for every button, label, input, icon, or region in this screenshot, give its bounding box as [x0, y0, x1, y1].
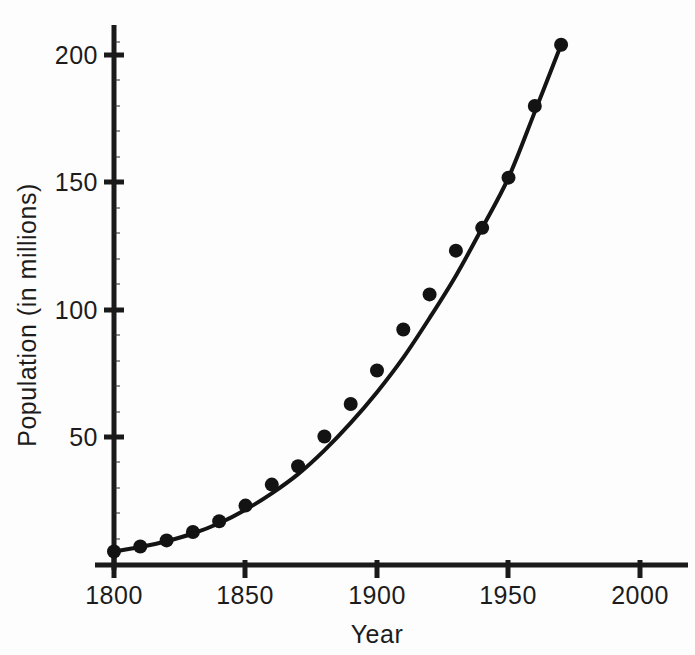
data-point: [239, 499, 253, 513]
data-point: [212, 514, 226, 528]
y-axis-title: Population (in millions): [13, 183, 41, 447]
x-tick-label-1800: 1800: [85, 581, 143, 609]
data-point: [291, 459, 305, 473]
data-point: [317, 429, 331, 443]
chart-background: [0, 0, 695, 655]
x-tick-label-2000: 2000: [611, 581, 669, 609]
x-tick-label-1900: 1900: [348, 581, 406, 609]
data-point: [370, 363, 384, 377]
data-point: [449, 244, 463, 258]
y-tick-label-100: 100: [55, 296, 98, 324]
data-point: [423, 287, 437, 301]
x-tick-label-1950: 1950: [479, 581, 537, 609]
data-point: [502, 171, 516, 185]
figure-root: 200 150 100 50 Population (in millions) …: [0, 0, 695, 655]
y-tick-label-150: 150: [55, 168, 98, 196]
data-point: [475, 221, 489, 235]
x-tick-label-1850: 1850: [216, 581, 274, 609]
data-point: [344, 397, 358, 411]
data-point: [107, 544, 121, 558]
x-axis-title: Year: [351, 620, 404, 648]
data-point: [396, 322, 410, 336]
y-tick-label-50: 50: [69, 423, 98, 451]
data-point: [160, 533, 174, 547]
data-point: [554, 38, 568, 52]
data-point: [186, 525, 200, 539]
data-point: [528, 99, 542, 113]
population-growth-chart: 200 150 100 50 Population (in millions) …: [0, 0, 695, 655]
data-point: [133, 540, 147, 554]
data-point: [265, 478, 279, 492]
y-tick-label-200: 200: [55, 41, 98, 69]
